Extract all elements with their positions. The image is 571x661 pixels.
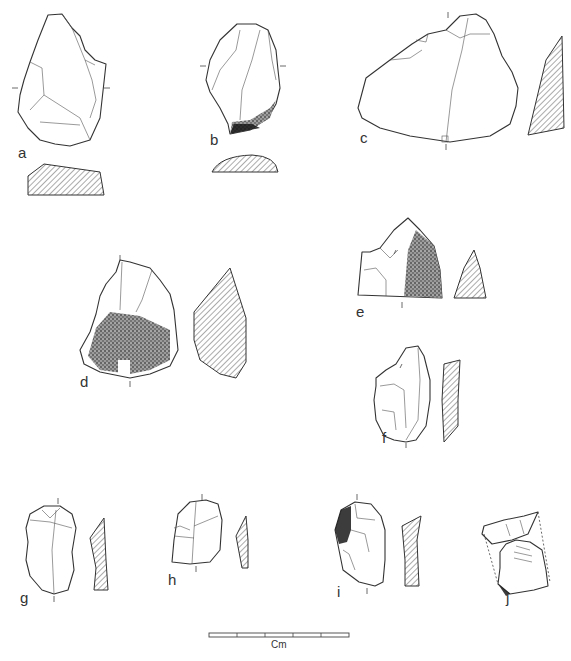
artifact-c: c	[350, 0, 571, 160]
artifact-label-j: j	[506, 590, 509, 605]
artifact-h-drawing	[160, 490, 280, 590]
artifact-f: f	[360, 340, 480, 450]
artifact-d-drawing	[60, 250, 260, 400]
artifact-d: d	[60, 250, 260, 400]
artifact-h: h	[160, 490, 280, 590]
artifact-c-drawing	[350, 0, 571, 160]
artifact-e-drawing	[350, 210, 520, 320]
artifact-a-drawing	[0, 0, 120, 200]
artifact-g-drawing	[10, 490, 120, 600]
artifact-a: a	[0, 0, 120, 200]
artifact-label-d: d	[80, 374, 88, 389]
artifact-label-f: f	[382, 430, 386, 445]
artifact-label-e: e	[356, 304, 364, 319]
artifact-f-drawing	[360, 340, 480, 450]
artifact-b-drawing	[180, 0, 300, 180]
artifact-label-i: i	[337, 584, 340, 599]
scale-unit-label: Cm	[271, 639, 287, 650]
artifact-j-drawing	[470, 490, 571, 600]
artifact-label-h: h	[168, 572, 176, 587]
artifact-label-b: b	[210, 132, 218, 147]
artifact-i: i	[325, 490, 445, 600]
artifact-label-g: g	[20, 590, 28, 605]
artifact-e: e	[350, 210, 520, 320]
scale-bar: Cm	[208, 630, 353, 660]
artifact-g: g	[10, 490, 120, 600]
artifact-i-drawing	[325, 490, 445, 600]
artifact-b: b	[180, 0, 300, 180]
artifact-j: j	[470, 490, 571, 600]
artifact-label-c: c	[360, 130, 368, 145]
artifact-label-a: a	[18, 145, 26, 160]
